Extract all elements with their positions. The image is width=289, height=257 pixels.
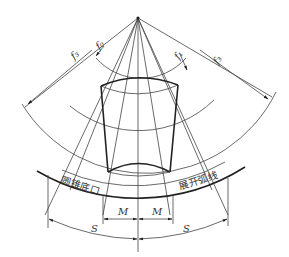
apex-point (136, 16, 139, 19)
label-f3-right: f₃ (210, 54, 224, 67)
label-f0-left: f₀ (92, 38, 106, 52)
label-m-left: M (117, 206, 129, 217)
label-s-right: S (183, 223, 190, 234)
label-s-left: S (91, 223, 98, 234)
dimension-f3-right: f₃ (200, 50, 268, 99)
label-m-right: M (151, 206, 163, 217)
dimension-f0-left: f₀ (92, 38, 106, 56)
cone-development-diagram: f₃ f₀ f₁ f₃ 圆锥底口 展开弧线 M M S S (0, 0, 289, 257)
dimension-f3-left: f₃ (28, 48, 92, 104)
label-f3-left: f₃ (67, 48, 81, 62)
radial-lines (25, 18, 272, 252)
